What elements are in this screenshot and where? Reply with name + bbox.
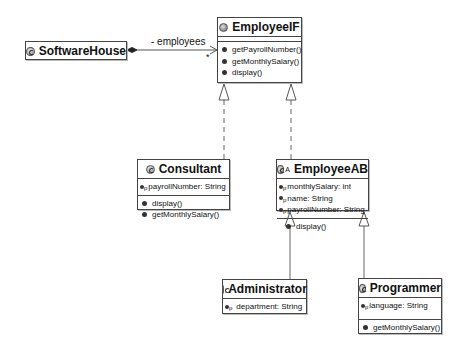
class-icon	[26, 47, 35, 56]
class-softwarehouse[interactable]: SoftwareHouse	[25, 41, 127, 60]
attribute-item[interactable]: ppayrollNumber: String	[140, 181, 225, 193]
attributes-section: ppayrollNumber: String	[138, 178, 229, 195]
class-employeeif[interactable]: EmployeeIF getPayrollNumber() getMonthly…	[217, 17, 302, 83]
methods-section: getMonthlySalary()	[359, 319, 441, 336]
realization-employeeab	[286, 84, 296, 159]
abstract-marker: A	[285, 166, 290, 173]
method-icon	[142, 201, 147, 206]
class-icon	[359, 284, 366, 293]
attribute-item[interactable]: planguage: String	[361, 300, 437, 312]
attributes-section: planguage: String	[359, 297, 441, 319]
method-icon	[142, 212, 147, 217]
method-item[interactable]: display()	[222, 67, 297, 79]
class-programmer[interactable]: Programmer planguage: String getMonthlyS…	[358, 278, 442, 334]
method-icon	[222, 70, 227, 75]
role-label-employees: - employees	[151, 36, 205, 47]
method-icon	[363, 325, 368, 330]
abstract-class-icon	[277, 165, 284, 174]
class-name: Consultant	[159, 162, 222, 176]
method-item[interactable]: getMonthlySalary()	[363, 322, 437, 334]
class-name: Administrator	[228, 282, 307, 296]
attributes-section: pmonthlySalary: int pname: String ppayro…	[277, 178, 368, 218]
method-item[interactable]: getMonthlySalary()	[222, 56, 297, 68]
method-item[interactable]: getPayrollNumber()	[222, 44, 297, 56]
methods-section: getPayrollNumber() getMonthlySalary() di…	[218, 41, 301, 81]
attribute-item[interactable]: ppayrollNumber: String	[279, 204, 364, 216]
method-item[interactable]: display()	[286, 221, 364, 233]
methods-section: display()	[277, 218, 368, 240]
attribute-item[interactable]: pmonthlySalary: int	[279, 181, 364, 193]
methods-section: display() getMonthlySalary()	[138, 195, 229, 223]
class-icon	[222, 285, 224, 294]
method-icon	[222, 59, 227, 64]
class-name: Programmer	[370, 281, 441, 295]
class-name: EmployeeIF	[232, 20, 299, 34]
attribute-item[interactable]: pdepartment: String	[225, 301, 302, 313]
interface-icon	[219, 23, 228, 32]
multiplicity-label: *	[206, 52, 210, 62]
attribute-item[interactable]: pname: String	[279, 193, 364, 205]
class-employeeab[interactable]: A EmployeeAB pmonthlySalary: int pname: …	[276, 159, 369, 211]
attributes-section: pdepartment: String	[223, 298, 306, 315]
method-item[interactable]: display()	[142, 198, 225, 210]
method-item[interactable]: getMonthlySalary()	[142, 209, 225, 221]
class-icon	[146, 165, 155, 174]
class-consultant[interactable]: Consultant ppayrollNumber: String displa…	[137, 159, 230, 210]
realization-consultant	[219, 84, 229, 159]
composition-employees	[127, 46, 217, 54]
class-administrator[interactable]: Administrator pdepartment: String	[222, 279, 307, 314]
method-icon	[222, 47, 227, 52]
class-name: SoftwareHouse	[39, 44, 126, 58]
class-name: EmployeeAB	[294, 162, 368, 176]
method-icon	[286, 224, 291, 229]
